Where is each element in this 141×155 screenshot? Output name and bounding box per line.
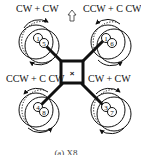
motor-6-label: 6: [110, 40, 114, 48]
rotor-label-front-right: CCW + C CW: [83, 4, 141, 14]
motor-1-label: 1: [36, 35, 40, 43]
up-arrow-icon: [68, 10, 76, 21]
motor-2-label: 1: [104, 35, 108, 43]
motor-5-label: 5: [42, 40, 46, 48]
rotor-label-rear-right: CW + CW: [88, 74, 131, 84]
motor-7-label: 7: [110, 109, 114, 117]
figure-caption: (a) X8 ...: [0, 149, 141, 155]
motor-8-label: 8: [42, 109, 46, 117]
rotor-label-rear-left: CCW + C CW: [6, 74, 65, 84]
center-marker: ×: [70, 69, 75, 78]
motor-4-label: 4: [36, 104, 40, 112]
rotor-label-front-left: CW + CW: [16, 4, 59, 14]
motor-3-label: 3: [104, 104, 108, 112]
